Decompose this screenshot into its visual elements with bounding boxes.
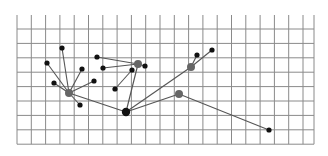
leaf-node	[91, 78, 96, 83]
leaf-node	[266, 127, 271, 132]
graph-edge	[191, 50, 212, 67]
leaf-node	[77, 102, 82, 107]
leaf-node	[51, 80, 56, 85]
hub-node	[134, 60, 142, 68]
leaf-node	[122, 108, 130, 116]
leaf-node	[59, 45, 64, 50]
leaf-node	[129, 67, 134, 72]
hub-node	[65, 89, 73, 97]
edges	[47, 48, 269, 130]
graph-edge	[103, 64, 138, 68]
network-diagram	[0, 0, 328, 156]
graph-edge	[47, 63, 69, 93]
leaf-node	[79, 66, 84, 71]
hub-node	[175, 90, 183, 98]
leaf-node	[112, 86, 117, 91]
leaf-node	[94, 54, 99, 59]
leaf-node	[142, 63, 147, 68]
diagram-svg	[0, 0, 328, 156]
hub-node	[187, 63, 195, 71]
leaf-node	[100, 65, 105, 70]
leaf-node	[194, 52, 199, 57]
graph-edge	[179, 94, 269, 130]
leaf-node	[44, 60, 49, 65]
graph-edge	[126, 94, 179, 112]
leaf-node	[209, 47, 214, 52]
grid	[17, 15, 314, 144]
